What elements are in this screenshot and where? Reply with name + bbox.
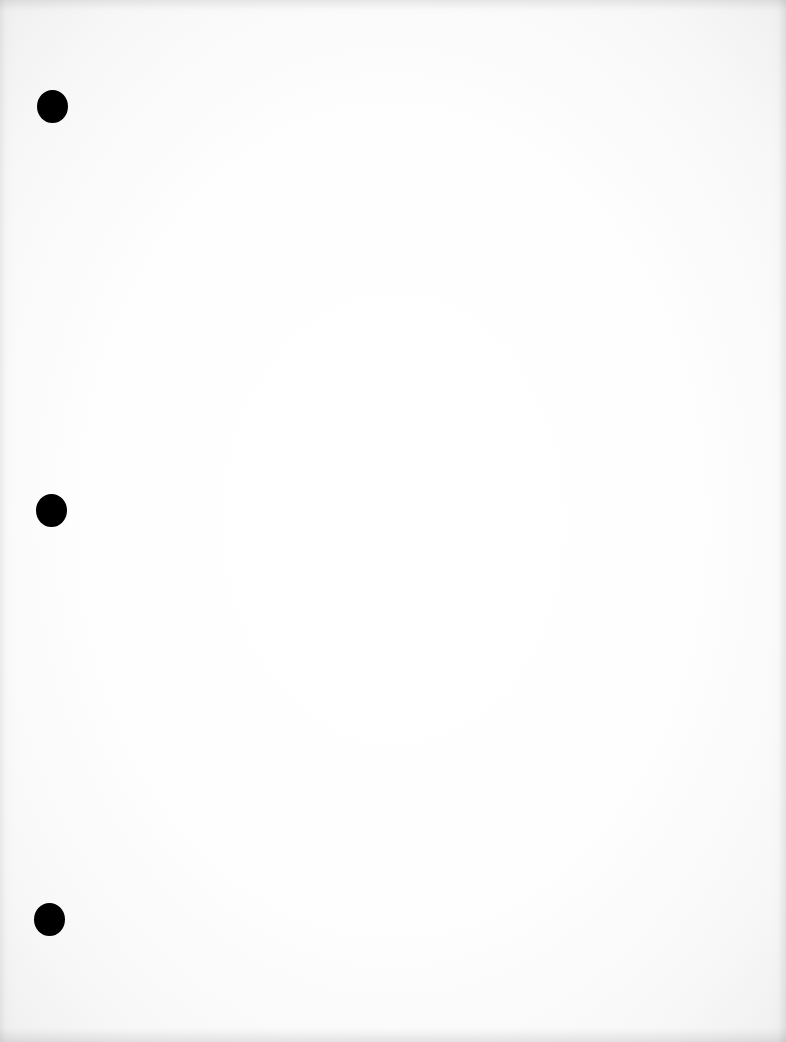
scan-edge-shadow-bottom — [0, 1028, 786, 1042]
scan-edge-shadow-top — [0, 0, 786, 10]
blank-scanned-page — [0, 0, 786, 1042]
punch-hole-middle — [36, 494, 67, 527]
punch-hole-bottom — [34, 903, 65, 936]
scan-edge-shadow-right — [778, 0, 786, 1042]
punch-hole-top — [37, 90, 68, 123]
scan-edge-shadow-left — [0, 0, 6, 1042]
